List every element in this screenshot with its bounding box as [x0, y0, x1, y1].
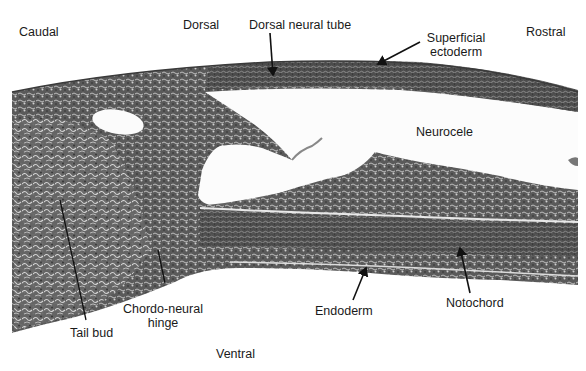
- superficial-ectoderm-line1: Superficial: [423, 31, 489, 45]
- tissue-micrograph: [0, 0, 586, 371]
- ventral-label: Ventral: [216, 347, 255, 361]
- neurocele-label: Neurocele: [416, 125, 473, 139]
- rostral-label: Rostral: [526, 25, 566, 39]
- caudal-label: Caudal: [19, 25, 59, 39]
- endoderm-label: Endoderm: [315, 304, 373, 318]
- dorsal-label: Dorsal: [183, 18, 219, 32]
- histology-figure: Caudal Dorsal Rostral Ventral Dorsal neu…: [0, 0, 586, 371]
- notochord-label: Notochord: [446, 296, 504, 310]
- tail-bud-label: Tail bud: [70, 326, 113, 340]
- chordo-neural-line2: hinge: [119, 316, 207, 330]
- superficial-ectoderm-line2: ectoderm: [423, 45, 489, 59]
- chordo-neural-hinge-label: Chordo-neural hinge: [119, 302, 207, 330]
- dorsal-neural-tube-label: Dorsal neural tube: [249, 18, 351, 32]
- superficial-ectoderm-label: Superficial ectoderm: [423, 31, 489, 59]
- chordo-neural-line1: Chordo-neural: [119, 302, 207, 316]
